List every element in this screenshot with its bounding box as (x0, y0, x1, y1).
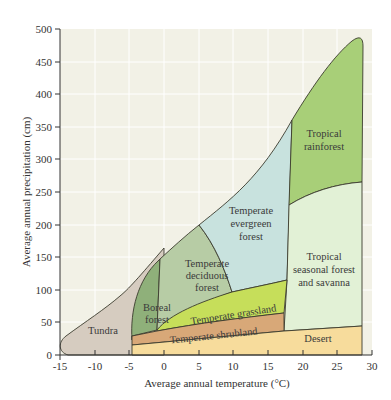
y-tick: 500 (36, 23, 53, 35)
label-temperate-evergreen-forest: Temperate (229, 205, 273, 216)
label-boreal-forest: Boreal (143, 302, 171, 313)
x-tick: 5 (196, 360, 202, 372)
y-tick: 100 (36, 284, 53, 296)
label-boreal-forest: forest (145, 314, 169, 325)
y-tick-labels: 500 450 400 350 300 250 200 150 100 50 0 (36, 23, 53, 361)
y-tick: 300 (36, 153, 53, 165)
y-tick: 0 (47, 349, 53, 361)
y-tick: 150 (36, 251, 53, 263)
x-tick: 15 (263, 360, 275, 372)
x-tick-labels: -15 -10 -5 0 5 10 15 20 25 30 (53, 360, 378, 372)
x-tick: 10 (228, 360, 240, 372)
y-tick: 50 (41, 316, 53, 328)
y-tick: 450 (36, 56, 53, 68)
label-tropical-seasonal-forest: seasonal forest (293, 264, 355, 275)
x-tick: -5 (124, 360, 134, 372)
y-axis-title: Average annual precipitation (cm) (20, 116, 33, 267)
x-tick: 20 (298, 360, 310, 372)
x-tick: 25 (332, 360, 344, 372)
x-axis-title: Average annual temperature (°C) (144, 377, 290, 390)
label-tropical-rainforest: rainforest (304, 141, 344, 152)
x-tick: 30 (367, 360, 379, 372)
y-tick: 200 (36, 219, 53, 231)
label-temperate-evergreen-forest: evergreen (230, 218, 272, 229)
label-tundra: Tundra (88, 325, 118, 336)
label-temperate-evergreen-forest: forest (239, 231, 263, 242)
x-tick: -10 (88, 360, 103, 372)
label-temperate-deciduous-forest: Temperate (185, 258, 229, 269)
label-temperate-deciduous-forest: deciduous (186, 270, 229, 281)
label-temperate-deciduous-forest: forest (195, 282, 219, 293)
label-tropical-seasonal-forest: Tropical (306, 251, 341, 262)
y-tick: 350 (36, 121, 53, 133)
y-tick: 400 (36, 88, 53, 100)
y-tick: 250 (36, 186, 53, 198)
label-desert: Desert (304, 333, 331, 344)
label-tropical-rainforest: Tropical (306, 128, 341, 139)
biome-chart: 500 450 400 350 300 250 200 150 100 50 0… (0, 0, 391, 400)
x-tick: 0 (161, 360, 167, 372)
label-tropical-seasonal-forest: and savanna (298, 277, 350, 288)
x-tick: -15 (53, 360, 68, 372)
